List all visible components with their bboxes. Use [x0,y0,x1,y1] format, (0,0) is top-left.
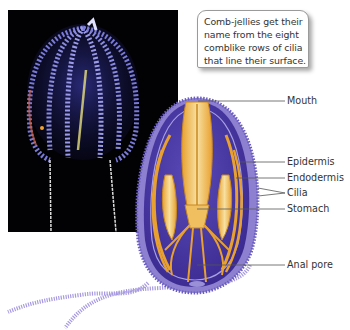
label-mouth: Mouth [287,95,317,106]
label-endodermis: Endodermis [287,172,344,183]
label-anal-pore: Anal pore [287,259,333,270]
label-stomach: Stomach [287,203,329,214]
label-epidermis: Epidermis [287,156,335,167]
label-cilia: Cilia [287,187,308,198]
